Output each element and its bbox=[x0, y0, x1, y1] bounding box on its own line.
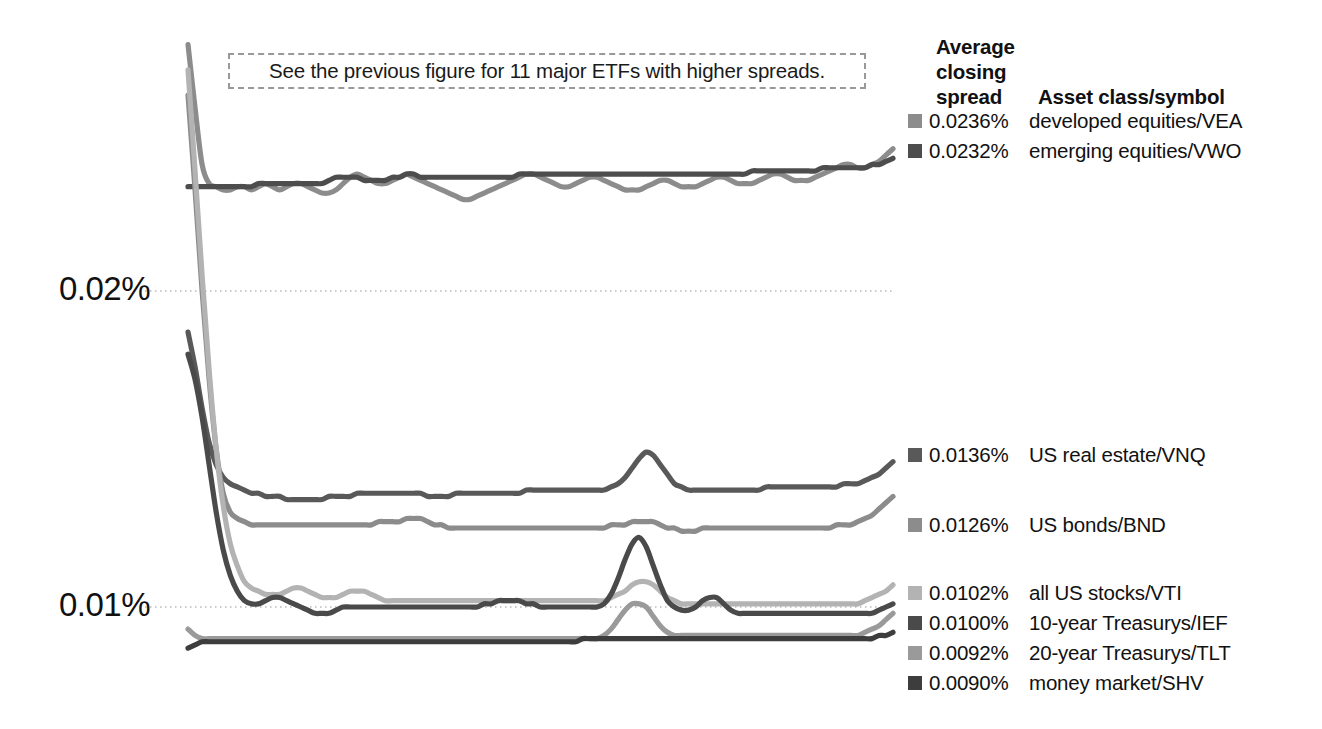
legend-header: Average closing spread Asset class/symbo… bbox=[936, 34, 1316, 109]
legend-spread-value: 0.0232% bbox=[929, 139, 1029, 163]
series-line-ief bbox=[188, 354, 893, 613]
legend-item-ief[interactable]: 0.0100%10-year Treasurys/IEF bbox=[908, 610, 1228, 636]
legend-asset-label: developed equities/VEA bbox=[1029, 109, 1242, 133]
legend-spread-value: 0.0090% bbox=[929, 671, 1029, 695]
legend-item-bnd[interactable]: 0.0126%US bonds/BND bbox=[908, 512, 1166, 538]
legend-item-vti[interactable]: 0.0102%all US stocks/VTI bbox=[908, 580, 1182, 606]
legend-item-vea[interactable]: 0.0236%developed equities/VEA bbox=[908, 108, 1242, 134]
legend-header-asset-class: Asset class/symbol bbox=[1038, 84, 1225, 109]
legend-spread-value: 0.0100% bbox=[929, 611, 1029, 635]
spread-chart-figure: See the previous figure for 11 major ETF… bbox=[0, 0, 1322, 729]
legend-asset-label: all US stocks/VTI bbox=[1029, 581, 1182, 605]
legend-color-swatch bbox=[908, 114, 922, 128]
legend-color-swatch bbox=[908, 616, 922, 630]
legend-item-shv[interactable]: 0.0090%money market/SHV bbox=[908, 670, 1204, 696]
legend-header-line-2: closing bbox=[936, 59, 1316, 84]
legend-asset-label: 20-year Treasurys/TLT bbox=[1029, 641, 1231, 665]
legend-color-swatch bbox=[908, 646, 922, 660]
legend-item-tlt[interactable]: 0.0092%20-year Treasurys/TLT bbox=[908, 640, 1231, 666]
legend-asset-label: emerging equities/VWO bbox=[1029, 139, 1241, 163]
series-line-vwo bbox=[188, 158, 893, 187]
legend-asset-label: US bonds/BND bbox=[1029, 513, 1166, 537]
legend-spread-value: 0.0092% bbox=[929, 641, 1029, 665]
legend-color-swatch bbox=[908, 586, 922, 600]
legend: Average closing spread Asset class/symbo… bbox=[908, 34, 1322, 724]
legend-asset-label: money market/SHV bbox=[1029, 671, 1204, 695]
legend-color-swatch bbox=[908, 676, 922, 690]
legend-color-swatch bbox=[908, 518, 922, 532]
series-line-bnd bbox=[188, 95, 893, 531]
legend-header-line-1: Average bbox=[936, 34, 1316, 59]
series-line-vnq bbox=[188, 332, 893, 500]
legend-color-swatch bbox=[908, 448, 922, 462]
y-axis-tick-label: 0.02% bbox=[0, 270, 150, 308]
legend-spread-value: 0.0136% bbox=[929, 443, 1029, 467]
legend-asset-label: US real estate/VNQ bbox=[1029, 443, 1205, 467]
y-axis-tick-label: 0.01% bbox=[0, 586, 150, 624]
legend-spread-value: 0.0236% bbox=[929, 109, 1029, 133]
legend-spread-value: 0.0102% bbox=[929, 581, 1029, 605]
legend-item-vwo[interactable]: 0.0232%emerging equities/VWO bbox=[908, 138, 1241, 164]
legend-asset-label: 10-year Treasurys/IEF bbox=[1029, 611, 1228, 635]
legend-item-vnq[interactable]: 0.0136%US real estate/VNQ bbox=[908, 442, 1205, 468]
legend-spread-value: 0.0126% bbox=[929, 513, 1029, 537]
legend-color-swatch bbox=[908, 144, 922, 158]
